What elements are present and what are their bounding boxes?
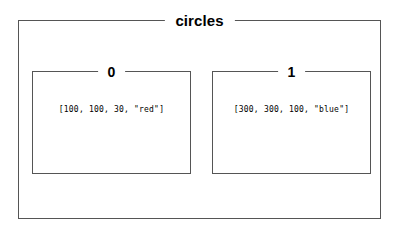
circle-item-1-index-label: 1 — [278, 65, 306, 79]
circles-group-box: circles 0 [100, 100, 30, "red"] 1 [300, … — [18, 20, 381, 219]
circle-item-1-value: [300, 300, 100, "blue"] — [213, 105, 370, 114]
circle-item-0-value: [100, 100, 30, "red"] — [33, 105, 190, 114]
circle-item-0-index-label: 0 — [98, 65, 126, 79]
circles-group-label: circles — [164, 13, 234, 28]
circle-item-0-box: 0 [100, 100, 30, "red"] — [32, 71, 191, 174]
circle-item-1-box: 1 [300, 300, 100, "blue"] — [212, 71, 371, 174]
diagram-canvas: circles 0 [100, 100, 30, "red"] 1 [300, … — [0, 0, 399, 237]
